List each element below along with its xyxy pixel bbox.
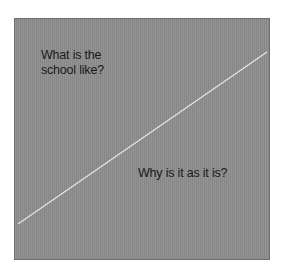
upper-label-line-2: school like? [41,63,104,78]
upper-region-label: What is the school like? [41,48,104,78]
diagonal-divider [0,0,285,271]
lower-region-label: Why is it as it is? [138,166,227,181]
upper-label-line-1: What is the [41,48,104,63]
